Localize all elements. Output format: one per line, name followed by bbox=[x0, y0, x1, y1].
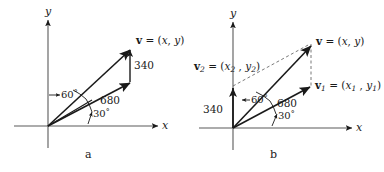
equals-sign: = ( bbox=[322, 35, 342, 47]
equals-sign: = ( bbox=[142, 34, 162, 46]
panel-b: y x v = (x, y) v1 = (x1 , y1) v2 = (x2 ,… bbox=[192, 0, 384, 172]
magnitude-680-label: 680 bbox=[277, 98, 297, 109]
equals-sign: = ( bbox=[326, 79, 346, 91]
comma-separator: , bbox=[356, 79, 366, 91]
close-paren: ) bbox=[360, 35, 364, 47]
angle-30-degree-symbol: ° bbox=[291, 109, 295, 118]
angle-30-value: 30 bbox=[93, 108, 106, 119]
close-paren: ) bbox=[180, 34, 184, 46]
close-paren: ) bbox=[256, 60, 260, 72]
comma-separator: , bbox=[235, 60, 245, 72]
vector-diagram-figure: y x v = (x, y) 340 680 60° 30° a bbox=[0, 0, 384, 172]
ray-60deg bbox=[48, 100, 92, 126]
y-axis-label: y bbox=[230, 8, 236, 19]
panel-b-caption: b bbox=[270, 149, 277, 160]
angle-30-label: 30° bbox=[93, 108, 110, 119]
panel-a: y x v = (x, y) 340 680 60° 30° a bbox=[0, 0, 192, 172]
vector-v1-label: v1 = (x1 , y1) bbox=[315, 80, 381, 92]
angle-60-value: 60 bbox=[61, 89, 74, 100]
angle-60-value: 60 bbox=[251, 94, 264, 105]
vector-resultant-v bbox=[233, 46, 311, 128]
vector-v2-label: v2 = (x2 , y2) bbox=[194, 61, 260, 73]
magnitude-680-label: 680 bbox=[100, 95, 120, 106]
magnitude-340-label: 340 bbox=[134, 60, 154, 71]
angle-30-value: 30 bbox=[278, 110, 291, 121]
panel-a-graphics bbox=[0, 0, 192, 172]
pointer-30deg bbox=[272, 114, 277, 126]
resultant-vector-label: v = (x, y) bbox=[136, 35, 184, 46]
y-axis-label: y bbox=[45, 6, 51, 17]
close-paren: ) bbox=[377, 79, 381, 91]
pointer-30deg bbox=[88, 112, 92, 124]
x-axis-label: x bbox=[162, 120, 168, 131]
angle-60-label: 60° bbox=[251, 94, 268, 105]
equals-sign: = ( bbox=[205, 60, 225, 72]
angle-60-degree-symbol: ° bbox=[74, 88, 78, 97]
vector-v1-680 bbox=[233, 87, 310, 128]
angle-30-label: 30° bbox=[278, 110, 295, 121]
resultant-vector-label: v = (x, y) bbox=[316, 36, 364, 47]
x-axis-label: x bbox=[356, 122, 362, 133]
angle-60-degree-symbol: ° bbox=[264, 93, 268, 102]
panel-a-caption: a bbox=[85, 149, 92, 160]
magnitude-340-label: 340 bbox=[203, 104, 223, 115]
angle-60-label: 60° bbox=[61, 89, 78, 100]
angle-30-degree-symbol: ° bbox=[106, 107, 110, 116]
